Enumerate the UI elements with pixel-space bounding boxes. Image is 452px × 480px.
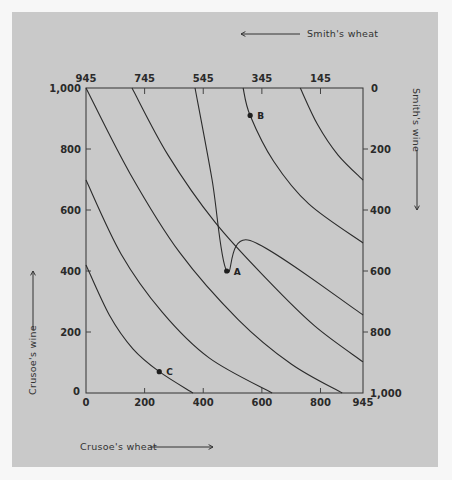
bottom-tick-label: 200 xyxy=(134,397,155,408)
right-tick-label: 200 xyxy=(370,144,391,155)
top-tick-label: 945 xyxy=(76,73,97,84)
left-tick-label: 0 xyxy=(73,386,80,397)
point-label-b: B xyxy=(257,111,264,121)
bottom-tick-label: 0 xyxy=(83,397,90,408)
top-tick-label: 545 xyxy=(193,73,214,84)
top-tick-label: 145 xyxy=(310,73,331,84)
left-tick-label: 400 xyxy=(60,266,81,277)
edgeworth-box-chart: 020040060080094502004006008001,000945745… xyxy=(0,0,452,480)
indifference-curve-curve-5 xyxy=(195,88,363,315)
indifference-curve-curve-2 xyxy=(86,180,272,393)
right-tick-label: 1,000 xyxy=(370,388,402,399)
bottom-tick-label: 400 xyxy=(193,397,214,408)
bottom-tick-label: 800 xyxy=(310,397,331,408)
point-label-a: A xyxy=(234,267,241,277)
smiths-wine-label: Smith's wine xyxy=(411,88,422,152)
left-tick-label: 800 xyxy=(60,144,81,155)
top-tick-label: 0 xyxy=(371,83,378,94)
point-label-c: C xyxy=(166,367,173,377)
crusoes-wine-label: Crusoe's wine xyxy=(27,325,38,395)
smiths-wheat-label: Smith's wheat xyxy=(307,28,378,39)
top-tick-label: 345 xyxy=(251,73,272,84)
plot-frame xyxy=(86,88,363,393)
indifference-curve-curve-3 xyxy=(86,88,342,393)
indifference-curve-curve-7 xyxy=(300,88,363,180)
right-tick-label: 800 xyxy=(370,327,391,338)
left-tick-label: 200 xyxy=(60,327,81,338)
indifference-curve-curve-4 xyxy=(132,88,363,362)
bottom-tick-label: 600 xyxy=(251,397,272,408)
point-c xyxy=(157,369,162,374)
right-tick-label: 400 xyxy=(370,205,391,216)
crusoes-wheat-label: Crusoe's wheat xyxy=(80,441,157,452)
left-tick-label: 600 xyxy=(60,205,81,216)
top-tick-label: 745 xyxy=(134,73,155,84)
left-tick-label: 1,000 xyxy=(49,83,81,94)
point-a xyxy=(224,268,229,273)
right-tick-label: 600 xyxy=(370,266,391,277)
point-b xyxy=(248,113,253,118)
